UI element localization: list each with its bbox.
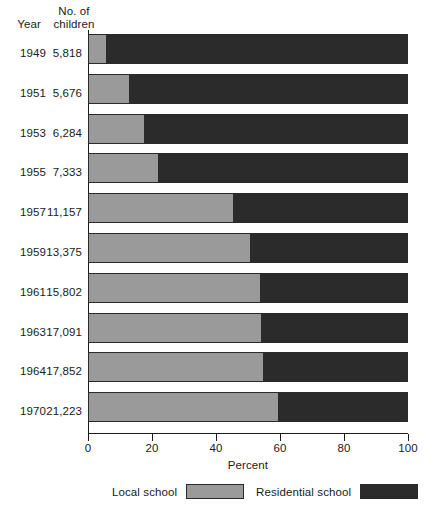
row-label: 196417,852 [0,356,88,386]
bar-segment-local-school [88,233,250,263]
bar-segment-local-school [88,74,129,104]
row-label-children-count: 13,375 [46,246,88,258]
row-label-children-count: 15,802 [46,286,88,298]
row-label-year: 1963 [0,326,46,338]
plot-area [88,30,408,434]
legend-item-local-school: Local school [112,484,244,499]
row-label-year: 1970 [0,405,46,417]
row-label-year: 1961 [0,286,46,298]
row-label-children-count: 5,818 [46,47,88,59]
bar-row [88,153,408,183]
row-label: 19515,676 [0,78,88,108]
row-label-year: 1955 [0,166,46,178]
row-label-column: 19495,81819515,67619536,28419557,3331957… [0,34,88,430]
x-axis-tick [216,434,217,441]
bar-segment-local-school [88,313,261,343]
legend-label-local-school: Local school [112,486,177,498]
row-label: 197021,223 [0,396,88,426]
row-label: 195711,157 [0,197,88,227]
x-axis-tick-label: 100 [388,442,426,454]
x-axis-tick [344,434,345,441]
row-label-children-count: 7,333 [46,166,88,178]
bar-row [88,273,408,303]
bar-segment-local-school [88,153,158,183]
row-label: 19495,818 [0,38,88,68]
row-label-children-count: 17,852 [46,365,88,377]
chart-legend: Local school Residential school [0,484,426,506]
bar-segment-residential-school [278,392,408,422]
bar-segment-residential-school [144,114,408,144]
bar-segment-residential-school [129,74,408,104]
x-axis-tick-label: 60 [260,442,300,454]
row-label-year: 1949 [0,47,46,59]
column-header-children: No. of children [46,5,102,31]
legend-label-residential-school: Residential school [256,486,351,498]
bar-segment-local-school [88,34,106,64]
x-axis: 020406080100 [88,434,408,456]
legend-swatch-residential-school [360,484,418,499]
row-label-children-count: 11,157 [46,206,88,218]
stacked-bar-chart: Year No. of children 19495,81819515,6761… [0,0,426,513]
row-label: 195913,375 [0,237,88,267]
bar-segment-residential-school [260,273,408,303]
x-axis-tick-label: 0 [68,442,108,454]
bar-segment-residential-school [106,34,408,64]
bar-segment-local-school [88,193,233,223]
legend-swatch-local-school [186,484,244,499]
bar-segment-local-school [88,392,278,422]
x-axis-title: Percent [88,459,408,471]
row-label: 196317,091 [0,317,88,347]
row-label-children-count: 21,223 [46,405,88,417]
legend-item-residential-school: Residential school [256,484,418,499]
row-label-year: 1959 [0,246,46,258]
bar-segment-residential-school [261,313,408,343]
bar-row [88,193,408,223]
row-label: 196115,802 [0,277,88,307]
x-axis-tick [152,434,153,441]
bar-row [88,74,408,104]
row-label-children-count: 6,284 [46,127,88,139]
row-label-year: 1951 [0,87,46,99]
bar-segment-local-school [88,352,263,382]
row-label-children-count: 17,091 [46,326,88,338]
x-axis-tick-label: 20 [132,442,172,454]
x-axis-tick [280,434,281,441]
bar-segment-residential-school [233,193,408,223]
bar-row [88,114,408,144]
x-axis-tick [408,434,409,441]
bar-row [88,313,408,343]
x-axis-tick [88,434,89,441]
bar-row [88,352,408,382]
bar-segment-residential-school [158,153,408,183]
bar-segment-local-school [88,273,260,303]
row-label: 19557,333 [0,157,88,187]
row-label-year: 1964 [0,365,46,377]
row-label-children-count: 5,676 [46,87,88,99]
row-label-year: 1957 [0,206,46,218]
row-label-year: 1953 [0,127,46,139]
bar-row [88,233,408,263]
row-label: 19536,284 [0,118,88,148]
bar-segment-residential-school [263,352,408,382]
bar-segment-residential-school [250,233,408,263]
bar-row [88,34,408,64]
x-axis-tick-label: 80 [324,442,364,454]
x-axis-tick-label: 40 [196,442,236,454]
bar-row [88,392,408,422]
bar-segment-local-school [88,114,144,144]
